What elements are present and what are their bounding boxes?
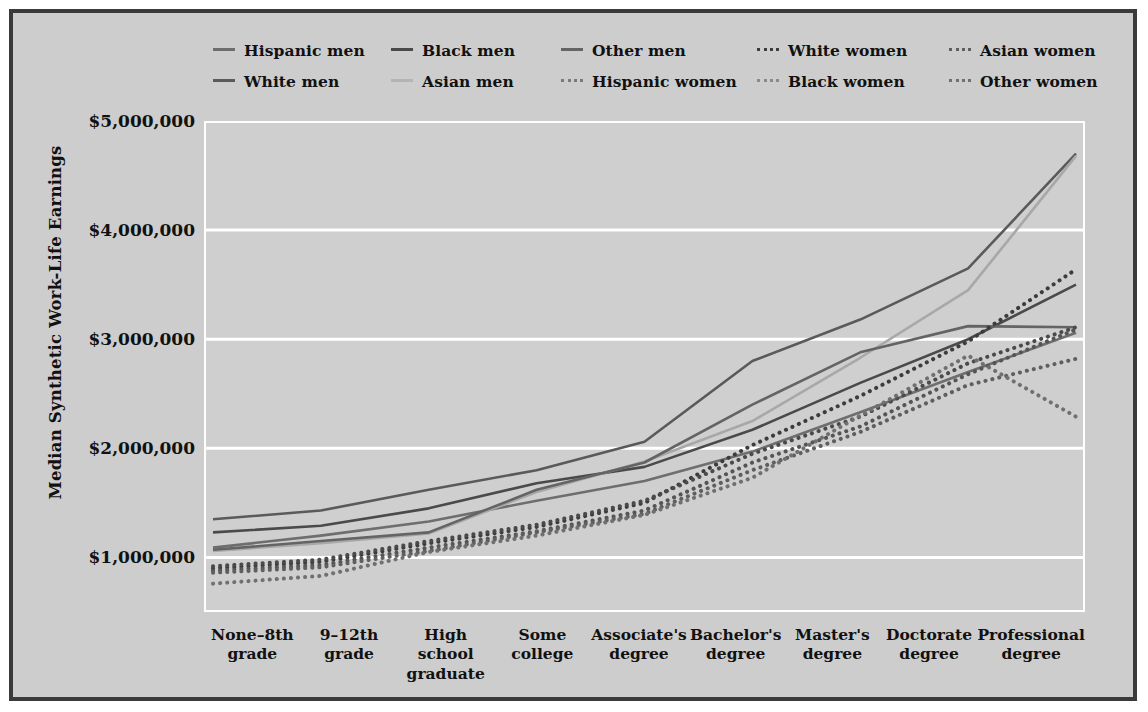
series-line-hispanic-men	[213, 333, 1076, 548]
x-tick-label: Bachelor'sdegree	[687, 625, 784, 683]
legend-swatch-line-icon	[391, 79, 413, 82]
x-tick-label: Associate'sdegree	[591, 625, 688, 683]
x-tick-label-line: degree	[881, 644, 978, 663]
x-tick-label: High schoolgraduate	[397, 625, 494, 683]
line-chart-svg	[204, 121, 1085, 612]
x-tick-label-line: graduate	[397, 664, 494, 683]
legend-item-hispanic-men: Hispanic men	[213, 41, 391, 60]
legend-item-asian-men: Asian men	[391, 72, 561, 91]
legend-item-white-women: White women	[757, 41, 949, 60]
legend-label: White men	[244, 72, 339, 91]
legend-swatch-line-icon	[213, 79, 235, 82]
x-tick-label-line: degree	[591, 644, 688, 663]
legend-swatch-line-icon	[757, 48, 779, 51]
x-tick-label-line: grade	[301, 644, 398, 663]
x-tick-label: Master'sdegree	[784, 625, 881, 683]
x-tick-label-line: grade	[204, 644, 301, 663]
series-line-hispanic-women	[213, 329, 1076, 570]
y-tick-label: $5,000,000	[89, 111, 195, 131]
x-tick-label-line: degree	[784, 644, 881, 663]
legend-label: Hispanic women	[592, 72, 737, 91]
x-tick-label-line: degree	[687, 644, 784, 663]
legend-item-asian-women: Asian women	[949, 41, 1096, 60]
x-tick-label-line: High school	[397, 625, 494, 664]
x-tick-label-line: None–8th	[204, 625, 301, 644]
legend-swatch-line-icon	[391, 48, 413, 51]
legend-label: Asian women	[980, 41, 1096, 60]
series-line-white-men	[213, 154, 1076, 520]
legend-row-1: Hispanic men Black men Other men White w…	[213, 41, 1148, 60]
series-line-black-men	[213, 285, 1076, 533]
legend-item-white-men: White men	[213, 72, 391, 91]
legend-item-black-women: Black women	[757, 72, 949, 91]
x-axis-ticks: None–8thgrade9–12thgradeHigh schoolgradu…	[204, 625, 1085, 683]
x-tick-label-line: 9–12th	[301, 625, 398, 644]
x-tick-label-line: Master's	[784, 625, 881, 644]
x-tick-label-line: Some	[494, 625, 591, 644]
legend-label: Asian men	[422, 72, 514, 91]
x-tick-label: Doctoratedegree	[881, 625, 978, 683]
y-tick-label: $4,000,000	[89, 220, 195, 240]
legend-swatch-line-icon	[561, 48, 583, 51]
y-tick-label: $3,000,000	[89, 329, 195, 349]
x-tick-label-line: Doctorate	[881, 625, 978, 644]
x-tick-label-line: Bachelor's	[687, 625, 784, 644]
y-tick-label: $1,000,000	[89, 547, 195, 567]
series-line-black-women	[213, 327, 1076, 566]
plot-area-wrapper	[204, 121, 1085, 612]
legend-row-2: White men Asian men Hispanic women Black…	[213, 72, 1148, 91]
x-tick-label-line: Associate's	[591, 625, 688, 644]
legend-swatch-line-icon	[949, 48, 971, 51]
legend-item-other-women: Other women	[949, 72, 1098, 91]
legend-label: Other men	[592, 41, 686, 60]
legend-label: Black women	[788, 72, 905, 91]
chart-frame: Hispanic men Black men Other men White w…	[9, 9, 1137, 701]
legend-swatch-line-icon	[561, 79, 583, 82]
legend-item-other-men: Other men	[561, 41, 757, 60]
legend-swatch-line-icon	[949, 79, 971, 82]
x-tick-label-line: degree	[977, 644, 1085, 663]
x-tick-label: Somecollege	[494, 625, 591, 683]
series-line-other-men	[213, 326, 1076, 550]
legend-label: Hispanic men	[244, 41, 365, 60]
legend-swatch-line-icon	[213, 48, 235, 51]
x-tick-label: 9–12thgrade	[301, 625, 398, 683]
x-tick-label: Professionaldegree	[977, 625, 1085, 683]
legend-item-hispanic-women: Hispanic women	[561, 72, 757, 91]
legend-label: Other women	[980, 72, 1098, 91]
x-tick-label: None–8thgrade	[204, 625, 301, 683]
legend-label: White women	[788, 41, 907, 60]
legend-swatch-line-icon	[757, 79, 779, 82]
x-tick-label-line: college	[494, 644, 591, 663]
y-axis-ticks: $5,000,000$4,000,000$3,000,000$2,000,000…	[61, 121, 195, 612]
legend-label: Black men	[422, 41, 515, 60]
x-tick-label-line: Professional	[977, 625, 1085, 644]
series-line-other-women	[213, 356, 1076, 584]
chart-legend: Hispanic men Black men Other men White w…	[213, 41, 1148, 103]
legend-item-black-men: Black men	[391, 41, 561, 60]
y-tick-label: $2,000,000	[89, 438, 195, 458]
